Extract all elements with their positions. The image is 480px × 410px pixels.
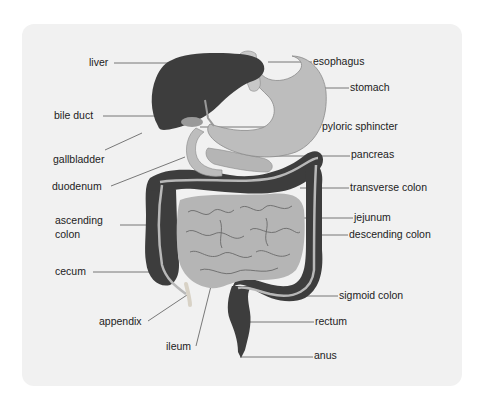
label-ascending-colon-line1: ascending — [55, 214, 103, 227]
label-sigmoid-colon: sigmoid colon — [339, 289, 403, 302]
label-ascending-colon-line2: colon — [55, 228, 80, 241]
label-pyloric-sphincter: pyloric sphincter — [322, 120, 398, 133]
label-jejunum: jejunum — [354, 211, 391, 224]
appendix-shape — [186, 284, 190, 305]
label-ileum: ileum — [166, 340, 191, 353]
gallbladder-shape — [181, 117, 203, 127]
label-stomach: stomach — [350, 81, 390, 94]
label-rectum: rectum — [315, 315, 347, 328]
digestive-system-illustration — [0, 0, 480, 410]
label-anus: anus — [314, 349, 337, 362]
label-esophagus: esophagus — [313, 55, 364, 68]
label-duodenum: duodenum — [52, 180, 102, 193]
label-cecum: cecum — [55, 265, 86, 278]
label-liver: liver — [89, 56, 108, 69]
label-transverse-colon: transverse colon — [350, 181, 427, 194]
label-pancreas: pancreas — [351, 148, 394, 161]
label-descending-colon: descending colon — [349, 228, 431, 241]
small-intestine — [177, 194, 305, 289]
label-gallbladder: gallbladder — [53, 153, 104, 166]
label-appendix: appendix — [99, 315, 142, 328]
label-bile-duct: bile duct — [54, 109, 93, 122]
